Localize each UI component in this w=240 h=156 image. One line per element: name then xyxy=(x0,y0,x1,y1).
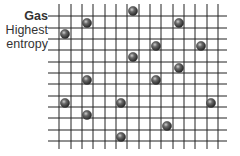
gas-particle xyxy=(116,98,125,107)
gas-particle xyxy=(174,18,183,27)
gas-particle xyxy=(162,121,171,130)
gas-particle xyxy=(151,41,160,50)
grid-lines xyxy=(48,4,227,149)
gas-particle xyxy=(128,52,137,61)
gas-particle xyxy=(128,6,137,15)
gas-particle xyxy=(151,75,160,84)
gas-particle-grid xyxy=(0,0,240,156)
gas-particle xyxy=(206,98,215,107)
gas-particle xyxy=(82,110,91,119)
gas-particle xyxy=(60,29,69,38)
particles xyxy=(60,6,215,141)
gas-particle xyxy=(116,132,125,141)
gas-particle xyxy=(174,63,183,72)
gas-particle xyxy=(82,18,91,27)
gas-particle xyxy=(196,41,205,50)
gas-particle xyxy=(82,75,91,84)
gas-particle xyxy=(60,98,69,107)
